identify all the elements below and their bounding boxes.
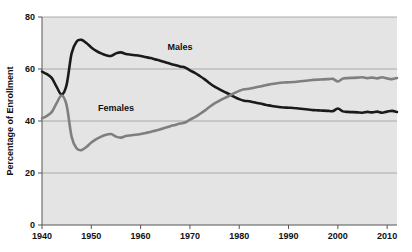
x-tick-label: 1980 — [229, 231, 249, 241]
y-axis-title: Percentage of Enrollment — [5, 66, 15, 175]
x-tick-label: 1960 — [131, 231, 151, 241]
x-tick-label: 1940 — [32, 231, 52, 241]
series-annotation-females: Females — [98, 103, 134, 113]
x-tick-label: 2010 — [377, 231, 397, 241]
y-tick-label: 40 — [25, 116, 35, 126]
x-tick-label: 1990 — [279, 231, 299, 241]
x-tick-label: 1950 — [81, 231, 101, 241]
y-tick-label: 60 — [25, 64, 35, 74]
x-tick-label: 2000 — [328, 231, 348, 241]
enrollment-line-chart: 020406080 194019501960197019801990200020… — [0, 0, 412, 252]
y-tick-label: 0 — [30, 220, 35, 230]
series-annotation-males: Males — [168, 42, 193, 52]
y-tick-label: 20 — [25, 168, 35, 178]
chart-figure: 020406080 194019501960197019801990200020… — [0, 0, 412, 252]
x-tick-label: 1970 — [180, 231, 200, 241]
y-tick-label: 80 — [25, 12, 35, 22]
